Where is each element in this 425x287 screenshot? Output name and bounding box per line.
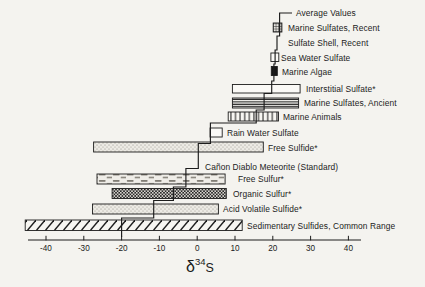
- sulfur-isotope-range-figure: Average ValuesMarine Sulfates, RecentSul…: [0, 0, 425, 287]
- row-label-marine-animals: Marine Animals: [283, 112, 342, 122]
- x-axis-tick-label: 30: [306, 244, 316, 253]
- row-label-free-sulfur: Free Sulfur*: [238, 174, 285, 184]
- x-axis-tick-label: -40: [40, 244, 52, 253]
- row-label-rain-water-sulfate: Rain Water Sulfate: [227, 128, 299, 138]
- row-label-marine-sulfates-recent: Marine Sulfates, Recent: [288, 23, 380, 33]
- row-label-organic-sulfur: Organic Sulfur*: [233, 189, 292, 199]
- range-bar-marine-sulfates-recent: [273, 23, 282, 32]
- range-bar-free-sulfur: [97, 174, 225, 184]
- row-label-marine-algae: Marine Algae: [282, 67, 332, 77]
- range-bar-acid-volatile-sulfide: [93, 204, 219, 214]
- range-bar-rain-water-sulfate: [210, 128, 222, 137]
- row-label-marine-sulfates-ancient: Marine Sulfates, Ancient: [304, 98, 397, 108]
- range-bar-organic-sulfur: [112, 189, 226, 199]
- range-bar-interstitial-sulfate: [232, 85, 300, 94]
- row-label-average-values: Average Values: [296, 8, 356, 18]
- range-bar-marine-animals: [228, 112, 278, 121]
- range-bar-sedimentary-sulfides-common-range: [25, 220, 242, 231]
- row-label-ca-on-diablo-meteorite-standard: Cañon Diablo Meteorite (Standard): [205, 162, 338, 172]
- x-axis-tick-label: -10: [153, 244, 165, 253]
- x-axis-tick-label: 10: [230, 244, 240, 253]
- row-label-sedimentary-sulfides-common-range: Sedimentary Sulfides, Common Range: [247, 221, 395, 231]
- range-bar-marine-sulfates-ancient: [232, 98, 298, 108]
- row-label-acid-volatile-sulfide: Acid Volatile Sulfide*: [223, 204, 303, 214]
- row-label-interstitial-sulfate: Interstitial Sulfate*: [306, 84, 376, 94]
- range-bar-free-sulfide: [94, 142, 264, 152]
- isotope-range-chart: Average ValuesMarine Sulfates, RecentSul…: [0, 0, 425, 287]
- x-axis-tick-label: 40: [344, 244, 354, 253]
- x-axis-tick-label: -20: [116, 244, 128, 253]
- row-label-free-sulfide: Free Sulfide*: [268, 143, 318, 153]
- row-label-sea-water-sulfate: Sea Water Sulfate: [281, 53, 351, 63]
- x-axis-tick-label: 0: [195, 244, 200, 253]
- x-axis-tick-label: -30: [78, 244, 90, 253]
- row-label-sulfate-shell-recent: Sulfate Shell, Recent: [288, 38, 369, 48]
- x-axis-tick-label: 20: [268, 244, 278, 253]
